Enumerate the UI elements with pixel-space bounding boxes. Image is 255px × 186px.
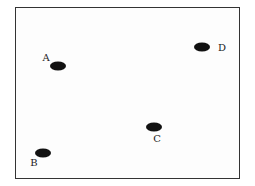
point-b-dot — [35, 149, 51, 158]
point-d-dot — [194, 43, 210, 52]
point-a-label: A — [42, 53, 49, 63]
point-b-label: B — [30, 158, 37, 168]
point-c-dot — [146, 123, 162, 132]
point-a-dot — [50, 62, 66, 71]
point-d-label: D — [218, 43, 226, 53]
point-c-label: C — [153, 134, 161, 144]
